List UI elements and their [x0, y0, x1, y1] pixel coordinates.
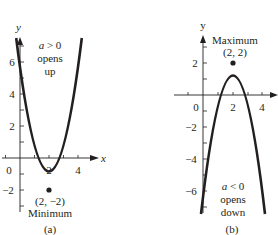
y-tick-label-4: 4 — [9, 88, 15, 100]
x-axis-arrow-icon — [90, 155, 99, 161]
panel-a: x y 0 2 4 6 4 2 — [2, 21, 106, 235]
caption-b: (b) — [226, 223, 239, 235]
note-up: up — [45, 65, 57, 77]
y-axis-label: y — [15, 21, 21, 33]
note-down: down — [221, 206, 246, 218]
vertex-label: (2, 2) — [223, 46, 247, 59]
note-opens: opens — [37, 52, 63, 64]
note-opens: opens — [220, 193, 246, 205]
x-tick-label-0: 0 — [193, 101, 199, 113]
vertex-kind-label: Minimum — [28, 207, 72, 219]
vertex-min-point — [46, 187, 51, 192]
x-tick-label-0: 0 — [6, 164, 12, 176]
vertex-kind-label: Maximum — [212, 34, 258, 46]
caption-a: (a) — [44, 223, 57, 235]
y-axis-label: y — [200, 19, 206, 31]
y-tick-label-neg2: −2 — [2, 184, 14, 196]
y-tick-label-neg6: −6 — [185, 185, 197, 197]
panel-b: y 0 2 4 2 −2 −4 −6 — [174, 19, 278, 235]
y-axis-arrow-icon — [200, 35, 206, 43]
x-tick-label-4: 4 — [75, 164, 81, 176]
figure: x y 0 2 4 6 4 2 — [0, 0, 278, 235]
y-tick-label-neg4: −4 — [185, 153, 197, 165]
x-tick-label-2: 2 — [230, 101, 236, 113]
vertex-max-point — [230, 60, 235, 65]
y-tick-label-6: 6 — [9, 56, 15, 68]
y-tick-label-neg2: −2 — [185, 121, 197, 133]
note-a-positive: a > 0 — [39, 39, 62, 51]
x-tick-label-4: 4 — [259, 101, 265, 113]
x-axis-arrow-icon — [270, 92, 278, 98]
y-tick-label-2: 2 — [192, 57, 198, 69]
x-axis-label: x — [100, 152, 106, 164]
y-tick-label-2: 2 — [9, 120, 15, 132]
note-a-negative: a < 0 — [222, 180, 245, 192]
